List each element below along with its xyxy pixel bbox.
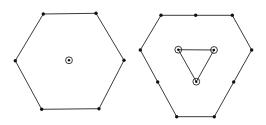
diagram-canvas	[0, 0, 266, 125]
vertex-dot	[94, 12, 97, 15]
ringed-vertex	[193, 78, 200, 85]
outer-polygon-edge	[140, 15, 251, 116]
vertex-dot	[14, 59, 17, 62]
vertex-dot	[156, 80, 159, 83]
vertex-dot	[175, 115, 178, 118]
vertex-dot	[213, 115, 216, 118]
vertex-dot	[139, 48, 142, 51]
figure-hexagon-with-center	[14, 12, 126, 111]
vertex-dot	[194, 14, 197, 17]
vertex-dot	[250, 48, 253, 51]
vertex-dot	[122, 59, 125, 62]
vertex-dot	[97, 107, 100, 110]
vertex-dot	[159, 14, 162, 17]
vertex-dot	[40, 108, 43, 111]
vertex-dot	[42, 12, 45, 15]
vertex-dot	[231, 14, 234, 17]
vertex-dot	[232, 80, 235, 83]
inner-triangle-edge	[178, 50, 214, 82]
figure-hexagon-with-inner-triangle	[139, 14, 254, 119]
ringed-vertex	[66, 57, 73, 64]
